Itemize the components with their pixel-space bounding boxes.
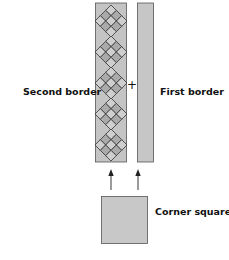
second-border-label: Second border [23,86,101,97]
second-border-strip [95,3,127,162]
first-border-label: First border [160,86,224,97]
border-assembly-diagram [0,0,229,260]
arrow-up-icon [135,169,140,190]
corner-square-label: Corner square [155,206,229,217]
plus-sign: + [127,78,137,92]
arrow-up-icon [108,169,113,190]
first-border-strip [138,3,154,162]
corner-square [102,197,148,244]
